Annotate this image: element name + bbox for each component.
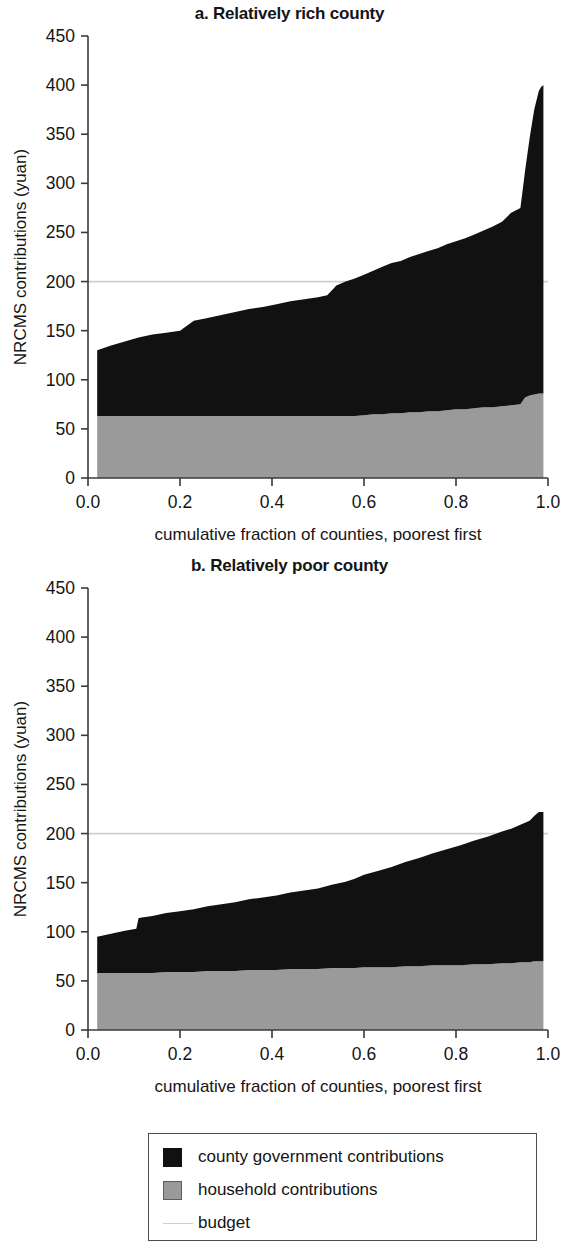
x-axis-tick-label: 0.8 [444,492,468,512]
x-axis-tick-label: 0.2 [168,492,192,512]
y-axis-title: NRCMS contributions (yuan) [11,149,30,365]
gray-square-swatch-icon [163,1181,182,1200]
x-axis-tick-label: 0.6 [352,1044,376,1064]
x-axis-tick-label: 0.0 [76,1044,101,1064]
y-axis-tick-label: 400 [46,75,75,95]
panel-b-plot: 0501001502002503003504004500.00.20.40.60… [0,574,579,1104]
panel-a-plot: 0501001502002503003504004500.00.20.40.60… [0,22,579,542]
y-axis-tick-label: 200 [46,272,75,292]
y-axis-tick-label: 150 [46,873,75,893]
y-axis-tick-label: 450 [46,26,75,46]
x-axis-tick-label: 1.0 [536,492,561,512]
x-axis-tick-label: 0.4 [260,1044,285,1064]
x-axis-tick-label: 0.4 [260,492,285,512]
x-axis-tick-label: 0.6 [352,492,376,512]
y-axis-tick-label: 300 [46,173,75,193]
y-axis-tick-label: 50 [56,971,76,991]
legend-item-budget: budget [163,1208,250,1238]
legend-label-government: county government contributions [198,1147,444,1167]
figure-container: a. Relatively rich county 05010015020025… [0,0,579,1241]
y-axis-tick-label: 0 [65,1020,75,1040]
legend: county government contributions househol… [148,1133,537,1241]
legend-item-government: county government contributions [163,1142,444,1172]
light-gray-line-swatch-icon [163,1214,193,1233]
x-axis-tick-label: 1.0 [536,1044,561,1064]
y-axis-title: NRCMS contributions (yuan) [11,701,30,917]
y-axis-tick-label: 250 [46,222,75,242]
y-axis-tick-label: 450 [46,578,75,598]
chart-panel-b: b. Relatively poor county 05010015020025… [0,552,579,1112]
x-axis-title: cumulative fraction of counties, poorest… [155,525,482,542]
x-axis-tick-label: 0.2 [168,1044,192,1064]
y-axis-tick-label: 200 [46,824,75,844]
y-axis-tick-label: 300 [46,725,75,745]
x-axis-tick-label: 0.0 [76,492,101,512]
county-government-contributions-area [97,85,543,416]
black-square-swatch-icon [163,1148,182,1167]
y-axis-tick-label: 50 [56,419,76,439]
y-axis-tick-label: 250 [46,774,75,794]
y-axis-tick-label: 150 [46,321,75,341]
x-axis-title: cumulative fraction of counties, poorest… [155,1077,482,1096]
y-axis-tick-label: 400 [46,627,75,647]
chart-panel-a: a. Relatively rich county 05010015020025… [0,0,579,545]
legend-label-household: household contributions [198,1180,378,1200]
panel-b-title: b. Relatively poor county [0,556,579,576]
panel-a-title: a. Relatively rich county [0,4,579,24]
legend-item-household: household contributions [163,1175,378,1205]
y-axis-tick-label: 100 [46,370,75,390]
y-axis-tick-label: 100 [46,922,75,942]
county-government-contributions-area [97,812,543,973]
legend-label-budget: budget [198,1213,250,1233]
y-axis-tick-label: 0 [65,468,75,488]
y-axis-tick-label: 350 [46,676,75,696]
x-axis-tick-label: 0.8 [444,1044,468,1064]
y-axis-tick-label: 350 [46,124,75,144]
